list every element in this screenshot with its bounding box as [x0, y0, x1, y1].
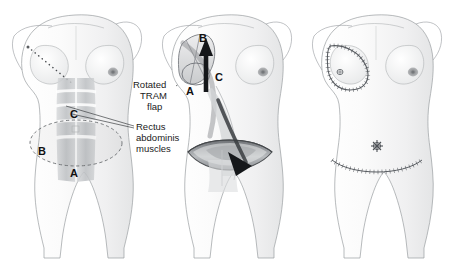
flap-ellipse-dashed [30, 120, 122, 166]
marker-c-preop: C [70, 108, 78, 120]
marker-b-preop: B [38, 145, 46, 157]
figure-root: C A B Rotated TRAM flap Rectus abdominis… [0, 0, 456, 260]
marker-b-transfer: B [199, 32, 207, 44]
illustration-svg: C A B Rotated TRAM flap Rectus abdominis… [0, 0, 456, 260]
rotated-label-line2: TRAM [140, 90, 167, 101]
rotated-label-line3: flap [147, 101, 162, 112]
rectus-label-line3: muscles [136, 143, 171, 154]
marker-a-preop: A [70, 167, 78, 179]
marker-c-transfer: C [215, 71, 223, 83]
marker-a-transfer: A [186, 85, 194, 97]
rotated-label-line1: Rotated [133, 79, 166, 90]
rectus-label-line1: Rectus [136, 121, 166, 132]
rectus-label-line2: abdominis [136, 132, 180, 143]
